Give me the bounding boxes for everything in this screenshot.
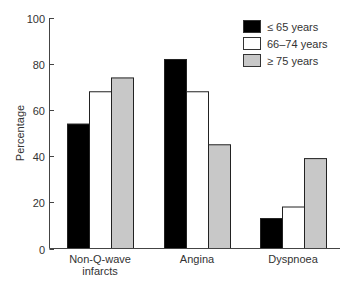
legend-label: 66–74 years	[267, 38, 328, 50]
legend-swatch	[244, 21, 261, 33]
category-label: Angina	[180, 253, 215, 265]
y-tick-label: 20	[33, 197, 45, 209]
bar	[261, 219, 283, 249]
bar	[187, 92, 209, 249]
bar	[209, 145, 231, 249]
y-tick-label: 80	[33, 59, 45, 71]
legend-label: ≥ 75 years	[267, 55, 319, 67]
y-axis-title: Percentage	[14, 105, 26, 161]
category-label: infarcts	[82, 265, 118, 277]
category-labels: Non-Q-waveinfarctsAnginaDyspnoea	[69, 253, 319, 277]
bar	[90, 92, 112, 249]
legend-swatch	[244, 55, 261, 67]
legend-label: ≤ 65 years	[267, 21, 319, 33]
bar	[165, 59, 187, 248]
bars-layer	[68, 59, 327, 248]
y-tick-label: 40	[33, 151, 45, 163]
y-tick-label: 0	[39, 244, 45, 256]
grouped-bar-chart: 020406080100 Percentage Non-Q-waveinfarc…	[0, 0, 352, 284]
category-label: Dyspnoea	[268, 253, 318, 265]
bar	[112, 78, 134, 249]
bar	[283, 207, 305, 248]
legend: ≤ 65 years66–74 years≥ 75 years	[244, 21, 329, 68]
bar	[305, 159, 327, 249]
legend-swatch	[244, 38, 261, 50]
bar	[68, 124, 90, 248]
category-label: Non-Q-wave	[69, 253, 131, 265]
y-tick-label: 100	[27, 13, 45, 25]
y-tick-label: 60	[33, 105, 45, 117]
